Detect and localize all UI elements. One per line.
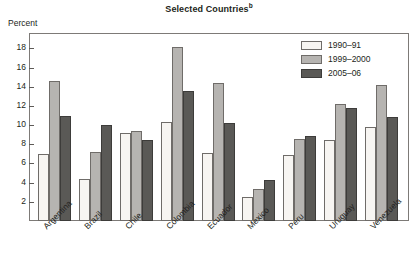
y-axis-tick-label: 12 bbox=[2, 101, 26, 110]
bar bbox=[161, 122, 172, 221]
bar bbox=[283, 155, 294, 221]
bar bbox=[324, 140, 335, 222]
bar-group bbox=[202, 34, 235, 221]
bar bbox=[335, 104, 346, 221]
legend-swatch bbox=[301, 69, 322, 78]
y-axis-tick bbox=[29, 144, 34, 145]
chart-title-text: Selected Countries bbox=[165, 4, 248, 14]
y-axis-tick-label: 16 bbox=[2, 63, 26, 72]
bar bbox=[120, 133, 131, 221]
y-axis-tick bbox=[29, 125, 34, 126]
y-axis-tick-label: 14 bbox=[2, 82, 26, 91]
bar bbox=[172, 47, 183, 221]
y-axis-tick-label: 8 bbox=[2, 139, 26, 148]
legend-label: 1999–2000 bbox=[328, 55, 371, 64]
bar-group bbox=[161, 34, 194, 221]
bar bbox=[365, 127, 376, 221]
bar bbox=[131, 131, 142, 221]
y-axis-tick bbox=[29, 202, 34, 203]
chart-title-superscript: b bbox=[249, 2, 253, 9]
page-title: Selected Countriesb bbox=[0, 4, 418, 14]
legend-item: 1990–91 bbox=[301, 39, 399, 52]
chart-legend: 1990–911999–20002005–06 bbox=[297, 36, 401, 84]
bar bbox=[294, 139, 305, 221]
bar bbox=[49, 81, 60, 221]
y-axis-tick bbox=[29, 48, 34, 49]
bar bbox=[38, 154, 49, 221]
legend-item: 1999–2000 bbox=[301, 53, 399, 66]
y-axis-tick-labels: 24681012141618 bbox=[0, 0, 26, 277]
y-axis-tick-label: 2 bbox=[2, 197, 26, 206]
legend-item: 2005–06 bbox=[301, 67, 399, 80]
y-axis-tick bbox=[29, 87, 34, 88]
legend-label: 2005–06 bbox=[328, 69, 361, 78]
y-axis-tick bbox=[29, 106, 34, 107]
y-axis-tick bbox=[29, 183, 34, 184]
bar bbox=[213, 83, 224, 221]
y-axis-tick-label: 18 bbox=[2, 43, 26, 52]
legend-swatch bbox=[301, 41, 322, 50]
y-axis-tick bbox=[29, 68, 34, 69]
bar bbox=[79, 179, 90, 221]
y-axis-tick bbox=[29, 163, 34, 164]
bar-group bbox=[120, 34, 153, 221]
y-axis-tick-label: 6 bbox=[2, 158, 26, 167]
bar-group bbox=[38, 34, 71, 221]
bar bbox=[142, 140, 153, 221]
bar bbox=[101, 125, 112, 221]
legend-label: 1990–91 bbox=[328, 41, 361, 50]
bar-group bbox=[242, 34, 275, 221]
legend-swatch bbox=[301, 55, 322, 64]
x-axis-tick-labels: ArgentinaBrazilChileColombiaEcuadorMexic… bbox=[30, 221, 408, 277]
bar-group bbox=[79, 34, 112, 221]
bar bbox=[202, 153, 213, 221]
bar bbox=[305, 136, 316, 221]
y-axis-tick-label: 10 bbox=[2, 120, 26, 129]
y-axis-tick-label: 4 bbox=[2, 178, 26, 187]
bar bbox=[376, 85, 387, 221]
